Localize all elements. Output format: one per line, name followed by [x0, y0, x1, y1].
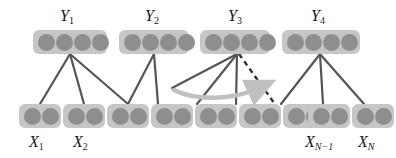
label-y2-base: Y [145, 7, 154, 24]
node-x6[interactable] [239, 104, 281, 128]
dashed-edge-y3 [239, 54, 277, 107]
label-xn-sub: N [368, 141, 375, 152]
unit-circle [42, 108, 59, 125]
unit-circle [86, 108, 103, 125]
unit-circle [38, 34, 55, 51]
unit-circle [218, 108, 235, 125]
unit-circle [205, 34, 222, 51]
unit-circle [92, 34, 109, 51]
unit-circle [156, 108, 173, 125]
unit-circle [124, 34, 141, 51]
unit-circle [24, 108, 41, 125]
label-y4-base: Y [311, 7, 320, 24]
node-y3[interactable] [200, 30, 270, 54]
unit-circle [375, 108, 392, 125]
unit-circle [174, 108, 191, 125]
label-y3: Y3 [228, 8, 242, 24]
graphical-model-figure: Y1 Y2 Y3 Y4 X1 X2 XN−1 XN [0, 0, 396, 158]
unit-circle [112, 108, 129, 125]
edge-group-y4 [281, 54, 364, 104]
label-y3-base: Y [228, 7, 237, 24]
label-y2: Y2 [145, 8, 159, 24]
node-x3[interactable] [107, 104, 149, 128]
unit-circle [68, 108, 85, 125]
unit-circle [305, 34, 322, 51]
unit-circle [56, 34, 73, 51]
unit-circle [262, 108, 279, 125]
edge-y4-x7 [281, 54, 320, 104]
label-x2-base: X [73, 133, 83, 150]
unit-circle [241, 34, 258, 51]
unit-circle [323, 34, 340, 51]
node-x5[interactable] [195, 104, 237, 128]
label-xn1-base: X [305, 133, 315, 150]
edge-y2-x3 [128, 54, 154, 104]
unit-circle [313, 108, 330, 125]
unit-circle [178, 34, 195, 51]
shift-arrow-icon [174, 89, 256, 98]
label-y4-sub: 4 [320, 15, 325, 26]
node-x4[interactable] [151, 104, 193, 128]
edge-y1-x3 [70, 54, 128, 104]
unit-circle [287, 34, 304, 51]
label-xn-minus-1: XN−1 [305, 134, 333, 150]
label-y3-sub: 3 [237, 15, 242, 26]
edge-group-y2 [128, 54, 158, 104]
node-y2[interactable] [119, 30, 189, 54]
label-y1: Y1 [60, 8, 74, 24]
label-x1: X1 [29, 134, 44, 150]
label-y1-base: Y [60, 7, 69, 24]
node-xn[interactable] [352, 104, 394, 128]
unit-circle [200, 108, 217, 125]
unit-circle [357, 108, 374, 125]
edge-y4-xn1 [320, 54, 323, 104]
label-x2: X2 [73, 134, 88, 150]
unit-circle [259, 34, 276, 51]
node-x2[interactable] [63, 104, 105, 128]
edge-y1-x1 [40, 54, 70, 104]
edge-y2-x4 [154, 54, 158, 104]
label-xn1-sub: N−1 [315, 141, 333, 152]
unit-circle [142, 34, 159, 51]
edge-y1-x2 [70, 54, 84, 104]
unit-circle [341, 34, 358, 51]
unit-circle [288, 108, 305, 125]
unit-circle [130, 108, 147, 125]
edge-y4-xn [320, 54, 364, 104]
label-x1-base: X [29, 133, 39, 150]
edge-group-y1 [40, 54, 128, 104]
node-y4[interactable] [282, 30, 360, 54]
label-y2-sub: 2 [154, 15, 159, 26]
label-x2-sub: 2 [83, 141, 88, 152]
node-xn-minus-1[interactable] [308, 104, 350, 128]
unit-circle [74, 34, 91, 51]
label-x1-sub: 1 [39, 141, 44, 152]
node-x1[interactable] [19, 104, 61, 128]
unit-circle [223, 34, 240, 51]
label-y1-sub: 1 [69, 15, 74, 26]
node-y1[interactable] [33, 30, 107, 54]
unit-circle [160, 34, 177, 51]
label-xn-base: X [358, 133, 368, 150]
label-xn: XN [358, 134, 374, 150]
unit-circle [244, 108, 261, 125]
label-y4: Y4 [311, 8, 325, 24]
edge-y3-x5 [172, 54, 237, 88]
unit-circle [331, 108, 348, 125]
